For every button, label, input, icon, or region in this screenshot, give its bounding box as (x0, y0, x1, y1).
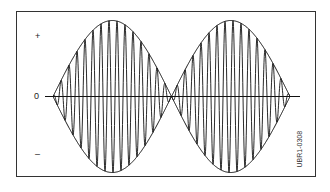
beat-waveform-plot (0, 0, 330, 192)
figure-id-label: UBR1-0308 (296, 132, 303, 168)
positive-axis-label: + (35, 32, 40, 41)
upper-envelope (53, 21, 290, 97)
zero-axis-label: 0 (34, 92, 39, 101)
negative-axis-label: – (35, 150, 40, 159)
